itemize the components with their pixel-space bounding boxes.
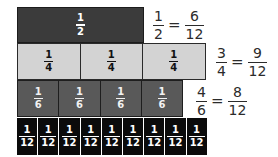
denominator: 4: [44, 63, 53, 73]
denominator: 12: [104, 138, 120, 148]
quarter-piece: 1 4: [17, 43, 81, 80]
fraction-label: 1 6: [158, 87, 167, 111]
numerator: 1: [23, 125, 32, 136]
equals-sign: =: [211, 92, 224, 110]
numerator: 1: [75, 87, 84, 98]
sixth-piece: 1 6: [141, 80, 183, 117]
denominator: 12: [146, 138, 162, 148]
denominator: 12: [19, 138, 35, 148]
sixths-strip: 1 6 1 6 1 6 1 6: [17, 80, 183, 117]
fraction-label: 1 4: [44, 50, 53, 74]
denominator: 2: [153, 27, 164, 41]
numerator: 1: [116, 87, 125, 98]
denominator: 4: [216, 64, 227, 78]
numerator: 1: [171, 125, 180, 136]
twelfth-piece: 112: [81, 118, 101, 155]
right-fraction: 6 12: [185, 9, 205, 41]
numerator: 8: [232, 85, 243, 100]
sixth-piece: 1 6: [17, 80, 59, 117]
quarter-piece: 1 4: [80, 43, 144, 80]
equation-four-sixths-equals-eight-twelfths: 4 6 = 8 12: [196, 85, 247, 117]
denominator: 4: [169, 63, 178, 73]
numerator: 1: [192, 125, 201, 136]
fraction-label: 1 4: [169, 50, 178, 74]
left-fraction: 3 4: [216, 46, 227, 78]
twelfth-piece: 112: [59, 118, 79, 155]
numerator: 1: [107, 50, 116, 61]
equation-half-equals-six-twelfths: 1 2 = 6 12: [153, 9, 204, 41]
fraction-label: 112: [125, 125, 141, 149]
denominator: 12: [185, 27, 205, 41]
numerator: 1: [76, 13, 85, 24]
twelfth-piece: 112: [187, 118, 207, 155]
numerator: 1: [65, 125, 74, 136]
denominator: 4: [107, 63, 116, 73]
numerator: 1: [107, 125, 116, 136]
fraction-label: 112: [62, 125, 78, 149]
fraction-label: 112: [19, 125, 35, 149]
numerator: 1: [129, 125, 138, 136]
denominator: 12: [248, 64, 268, 78]
fraction-label: 1 6: [75, 87, 84, 111]
right-fraction: 8 12: [228, 85, 248, 117]
fraction-label: 112: [104, 125, 120, 149]
quarters-strip: 1 4 1 4 1 4: [17, 43, 206, 80]
numerator: 1: [34, 87, 43, 98]
fraction-label: 112: [83, 125, 99, 149]
denominator: 12: [125, 138, 141, 148]
sixth-piece: 1 6: [100, 80, 142, 117]
fraction-label: 1 6: [34, 87, 43, 111]
twelfth-piece: 112: [165, 118, 185, 155]
twelfth-piece: 112: [123, 118, 143, 155]
denominator: 12: [83, 138, 99, 148]
right-fraction: 9 12: [248, 46, 268, 78]
sixth-piece: 1 6: [58, 80, 100, 117]
fraction-label: 1 6: [116, 87, 125, 111]
numerator: 4: [196, 85, 207, 100]
numerator: 1: [150, 125, 159, 136]
denominator: 6: [75, 100, 84, 110]
numerator: 6: [189, 9, 200, 24]
denominator: 2: [76, 27, 85, 37]
equals-sign: =: [231, 53, 244, 71]
fraction-label: 112: [40, 125, 56, 149]
fraction-label: 1 2: [76, 13, 85, 37]
left-fraction: 1 2: [153, 9, 164, 41]
fraction-label: 112: [189, 125, 205, 149]
equals-sign: =: [168, 16, 181, 34]
denominator: 6: [34, 100, 43, 110]
denominator: 6: [196, 103, 207, 117]
denominator: 12: [189, 138, 205, 148]
fraction-label: 112: [146, 125, 162, 149]
twelfth-piece: 112: [102, 118, 122, 155]
twelfth-piece: 112: [17, 118, 37, 155]
halves-strip: 1 2: [17, 7, 144, 43]
denominator: 12: [167, 138, 183, 148]
numerator: 9: [252, 46, 263, 61]
numerator: 1: [153, 9, 164, 24]
quarter-piece: 1 4: [142, 43, 206, 80]
numerator: 1: [158, 87, 167, 98]
left-fraction: 4 6: [196, 85, 207, 117]
numerator: 1: [86, 125, 95, 136]
twelfths-strip: 112 112 112 112 112 112 112 112 112: [17, 118, 208, 155]
numerator: 1: [44, 50, 53, 61]
denominator: 12: [228, 103, 248, 117]
fraction-label: 1 4: [107, 50, 116, 74]
numerator: 1: [44, 125, 53, 136]
fraction-label: 112: [167, 125, 183, 149]
numerator: 3: [216, 46, 227, 61]
equation-three-quarters-equals-nine-twelfths: 3 4 = 9 12: [216, 46, 267, 78]
denominator: 12: [40, 138, 56, 148]
half-piece: 1 2: [17, 7, 144, 43]
twelfth-piece: 112: [38, 118, 58, 155]
denominator: 6: [158, 100, 167, 110]
denominator: 12: [62, 138, 78, 148]
twelfth-piece: 112: [144, 118, 164, 155]
denominator: 6: [116, 100, 125, 110]
numerator: 1: [169, 50, 178, 61]
